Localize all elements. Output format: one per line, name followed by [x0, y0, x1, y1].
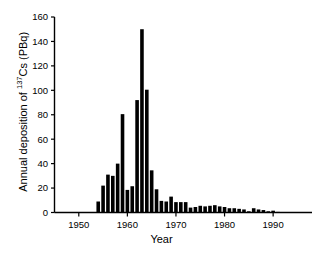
- bar: [184, 202, 188, 212]
- bar: [160, 201, 164, 213]
- bar: [155, 189, 159, 212]
- y-axis-tick-labels: 020406080100120140160: [32, 11, 48, 218]
- bar: [150, 170, 154, 212]
- y-axis-tick-label: 0: [43, 207, 48, 218]
- bar: [198, 206, 202, 213]
- bar: [169, 197, 173, 213]
- bar: [194, 207, 198, 212]
- chart-figure: Annual deposition of 137Cs (PBq) 0204060…: [0, 0, 323, 255]
- y-axis-tick-label: 120: [32, 60, 48, 71]
- bar-series: [96, 29, 279, 212]
- bar: [140, 29, 144, 212]
- y-axis-tick-label: 40: [37, 158, 48, 169]
- bar: [111, 176, 115, 213]
- bar: [130, 186, 134, 212]
- x-axis-label: Year: [0, 233, 323, 245]
- bar: [208, 206, 212, 213]
- y-axis-tick-label: 160: [32, 11, 48, 22]
- y-axis-tick-label: 100: [32, 85, 48, 96]
- x-axis-tick-label: 1970: [165, 219, 186, 230]
- bar: [106, 175, 110, 213]
- bar: [121, 114, 125, 212]
- bar: [218, 206, 222, 212]
- bar: [213, 205, 217, 212]
- bar: [101, 186, 105, 213]
- y-axis-tick-label: 80: [37, 109, 48, 120]
- bar: [179, 202, 183, 212]
- bar: [135, 100, 139, 212]
- bar: [164, 202, 168, 213]
- x-axis-tick-label: 1960: [117, 219, 138, 230]
- x-axis-tick-label: 1980: [214, 219, 235, 230]
- bar: [116, 164, 120, 213]
- bar: [203, 206, 207, 212]
- x-axis-tick-label: 1990: [263, 219, 284, 230]
- y-axis-tick-label: 20: [37, 182, 48, 193]
- y-axis-tick-label: 60: [37, 134, 48, 145]
- y-axis-tick-label: 140: [32, 36, 48, 47]
- x-axis-tick-labels: 19501960197019801990: [68, 219, 283, 230]
- bar: [174, 202, 178, 212]
- bar: [223, 207, 227, 212]
- chart-plot-area: 020406080100120140160 195019601970198019…: [0, 0, 323, 255]
- x-axis-tick-label: 1950: [68, 219, 89, 230]
- bar: [145, 90, 149, 213]
- bar: [96, 202, 100, 213]
- bar: [189, 208, 193, 213]
- bar: [126, 190, 130, 213]
